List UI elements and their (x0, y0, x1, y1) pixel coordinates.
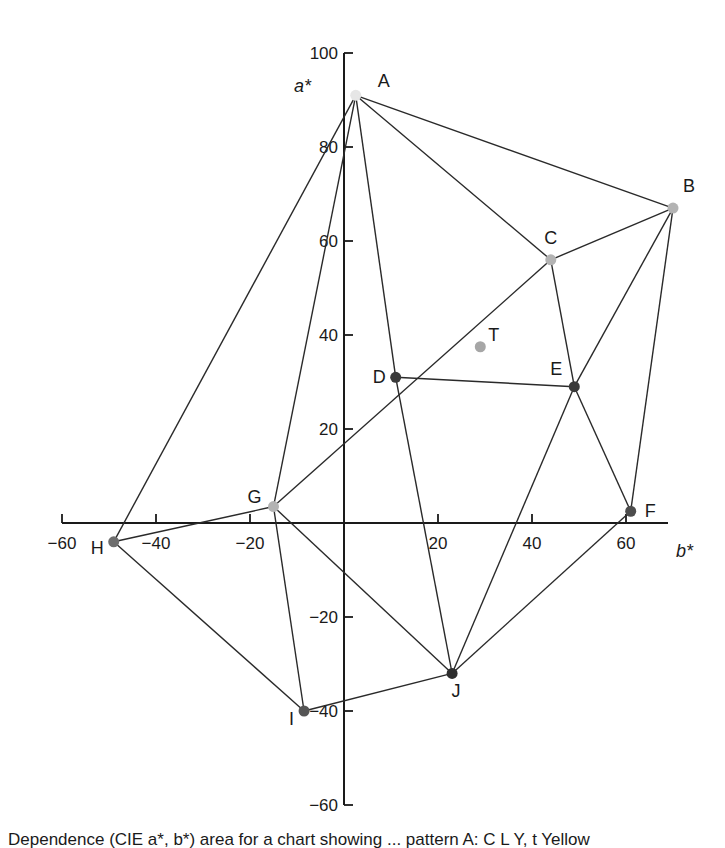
cie-ab-chart: −60−40−2020406010080604020−20−40−60 ABCD… (0, 0, 725, 848)
edge-E-J (452, 387, 574, 674)
point-label-F: F (645, 501, 656, 521)
x-tick-label: 60 (617, 534, 636, 553)
x-axis-title: b* (676, 541, 694, 561)
y-tick-label: 100 (310, 44, 338, 63)
point-label-D: D (373, 367, 386, 387)
point-label-J: J (452, 681, 461, 701)
point-label-G: G (247, 487, 261, 507)
x-tick-label: 20 (429, 534, 448, 553)
point-label-I: I (289, 709, 294, 729)
point-J (447, 668, 458, 679)
y-tick-label: 40 (319, 326, 338, 345)
edge-A-B (356, 95, 673, 208)
y-tick-label: −60 (309, 796, 338, 815)
point-D (390, 372, 401, 383)
edge-A-D (356, 95, 396, 377)
edge-D-E (396, 377, 575, 386)
edge-A-H (114, 95, 356, 542)
edge-B-F (631, 208, 673, 511)
edge-B-C (551, 208, 673, 260)
edge-G-I (274, 507, 305, 711)
point-F (625, 506, 636, 517)
point-A (350, 90, 361, 101)
x-tick-label: 40 (523, 534, 542, 553)
y-tick-label: 80 (319, 138, 338, 157)
edge-A-C (356, 95, 551, 259)
edge-E-F (574, 387, 630, 512)
point-label-T: T (488, 325, 499, 345)
point-label-E: E (550, 359, 562, 379)
point-label-H: H (91, 538, 104, 558)
edge-B-E (574, 208, 673, 387)
axis-tick-labels: −60−40−2020406010080604020−20−40−60 (48, 44, 636, 815)
y-tick-label: 20 (319, 420, 338, 439)
data-points (108, 90, 678, 717)
edge-H-I (114, 542, 304, 711)
y-tick-label: −40 (309, 702, 338, 721)
axes (62, 53, 668, 805)
point-label-B: B (683, 176, 695, 196)
point-label-C: C (544, 228, 557, 248)
point-G (268, 501, 279, 512)
x-tick-label: −40 (142, 534, 171, 553)
point-E (569, 381, 580, 392)
point-B (668, 203, 679, 214)
point-I (299, 706, 310, 717)
x-tick-label: −20 (236, 534, 265, 553)
point-H (108, 536, 119, 547)
x-tick-label: −60 (48, 534, 77, 553)
point-T (475, 341, 486, 352)
y-axis-title: a* (294, 76, 312, 96)
edges (114, 95, 673, 711)
edge-I-J (304, 673, 452, 711)
y-tick-label: −20 (309, 608, 338, 627)
figure-caption: Dependence (CIE a*, b*) area for a chart… (8, 830, 725, 848)
point-label-A: A (378, 71, 390, 91)
point-C (545, 254, 556, 265)
